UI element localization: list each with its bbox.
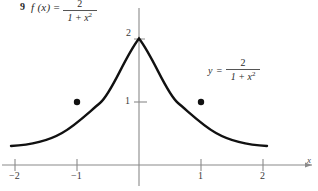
y-tick-label-2: 2 <box>126 27 131 38</box>
x-tick-label-1: 1 <box>198 170 203 181</box>
graph-canvas <box>0 0 318 191</box>
y-tick-label-1: 1 <box>125 95 130 106</box>
function-graph-figure: 9 f (x) = 2 1 + x2 y = 2 1 + x2 <box>0 0 318 191</box>
x-tick-label-minus2: −2 <box>9 170 20 181</box>
inflection-point-right-dot <box>198 99 204 105</box>
x-tick-label-minus1: −1 <box>71 170 82 181</box>
x-axis-label: x <box>307 155 311 165</box>
inflection-point-left-dot <box>74 99 80 105</box>
x-tick-label-2: 2 <box>260 170 265 181</box>
